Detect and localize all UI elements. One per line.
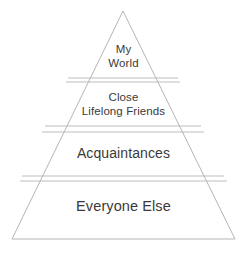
pyramid-diagram: My World Close Lifelong Friends Acquaint… [0, 0, 247, 253]
pyramid-tier-label-acquaintances: Acquaintances [0, 145, 247, 162]
pyramid-tier-label-close-lifelong-friends: Close Lifelong Friends [0, 90, 247, 118]
pyramid-tier-label-everyone-else: Everyone Else [0, 198, 247, 216]
pyramid-tier-label-my-world: My World [0, 42, 247, 70]
